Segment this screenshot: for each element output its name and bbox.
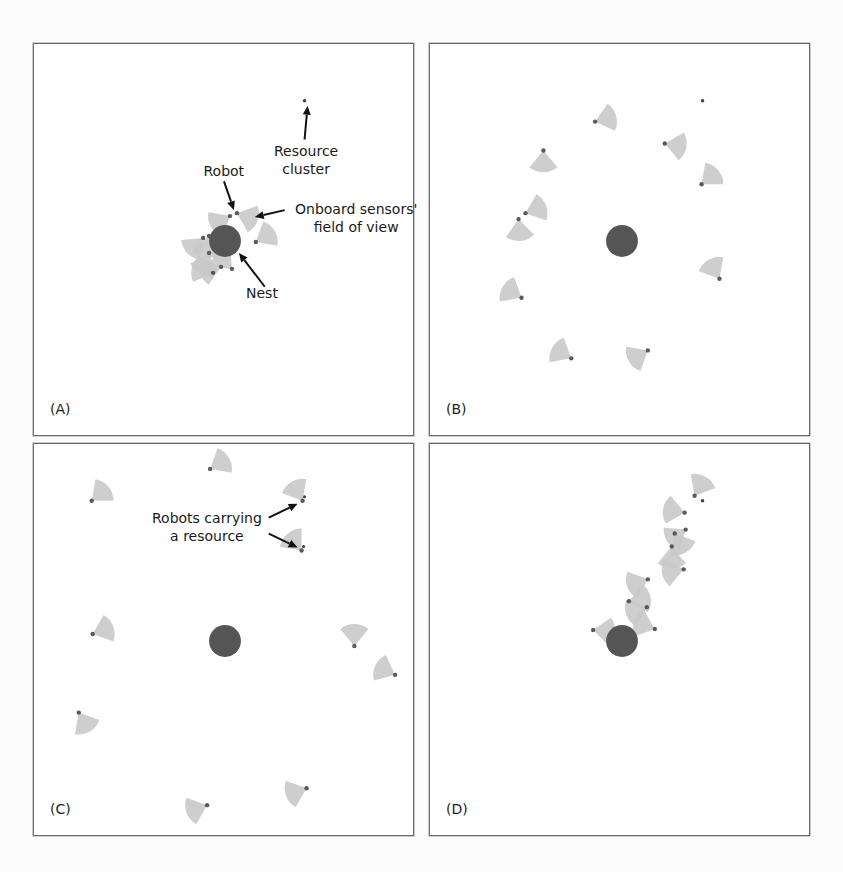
arrow-head-icon (303, 106, 311, 115)
sensor-fov-icon (626, 347, 648, 371)
annotation-line: Robot (204, 162, 245, 180)
robot-icon (670, 544, 674, 548)
panel-b-canvas (430, 44, 809, 435)
robot-icon (646, 577, 650, 581)
robot-icon (673, 531, 677, 535)
annotation-line: Robots carrying (152, 509, 262, 527)
sensor-fov-icon (256, 221, 278, 245)
sensor-fov-icon (549, 338, 571, 362)
robot-icon (646, 348, 650, 352)
sensor-fov-icon (210, 448, 232, 472)
robot-icon (205, 803, 209, 807)
panel-d: (D) (429, 443, 810, 836)
annotation-line: a resource (152, 527, 262, 545)
sensor-fov-icon (92, 479, 114, 501)
sensor-fov-icon (373, 655, 395, 680)
sensor-fov-icon (285, 781, 307, 807)
robot-icon (235, 211, 239, 215)
robot-icon (254, 240, 258, 244)
robot-icon (352, 644, 356, 648)
robot-icon (208, 467, 212, 471)
robot-icon (77, 710, 81, 714)
carried-resource-icon (303, 495, 306, 498)
robot-icon (682, 510, 686, 514)
sensor-fov-icon (529, 150, 557, 172)
annotation-line: Resource (274, 142, 338, 160)
sensor-fov-icon (340, 624, 368, 646)
robot-icon (569, 356, 573, 360)
robot-icon (519, 296, 523, 300)
robot-icon (653, 627, 657, 631)
robot-icon (681, 567, 685, 571)
sensor-fov-icon (691, 474, 715, 496)
robot-icon (300, 499, 304, 503)
sensor-fov-icon (595, 104, 617, 131)
nest-icon (606, 625, 638, 657)
robot-icon (591, 628, 595, 632)
robot-icon (523, 211, 527, 215)
nest-icon (209, 225, 241, 257)
sensor-fov-icon (506, 219, 534, 241)
panel-c-label: (C) (50, 801, 71, 817)
robot-icon (207, 251, 211, 255)
annotation-line: Onboard sensors' (295, 200, 417, 218)
sensor-fov-icon (93, 615, 115, 641)
robot-icon (627, 599, 631, 603)
robot-icon (91, 632, 95, 636)
robot-icon (299, 548, 303, 552)
panel-a-canvas (34, 44, 413, 435)
sensor-fov-icon (75, 713, 99, 735)
panel-d-label: (D) (446, 801, 468, 817)
robot-icon (304, 786, 308, 790)
arrow-line (244, 260, 264, 287)
annotation-label: Onboard sensors'field of view (295, 200, 417, 236)
robot-icon (699, 182, 703, 186)
arrow-line (269, 508, 290, 518)
robot-icon (211, 271, 215, 275)
annotation-label: Resourcecluster (274, 142, 338, 178)
panel-c-canvas (34, 444, 413, 835)
annotation-label: Robot (204, 162, 245, 180)
sensor-fov-icon (702, 163, 724, 185)
sensor-fov-icon (525, 194, 547, 220)
robot-icon (230, 267, 234, 271)
panel-c: (C) Robots carryinga resource (33, 443, 414, 836)
nest-icon (209, 625, 241, 657)
sensor-fov-icon (500, 277, 522, 301)
panel-a-label: (A) (50, 401, 71, 417)
annotation-line: cluster (274, 160, 338, 178)
robot-icon (90, 499, 94, 503)
sensor-fov-icon (665, 133, 687, 161)
robot-icon (219, 265, 223, 269)
robot-icon (663, 141, 667, 145)
robot-icon (717, 277, 721, 281)
resource-cluster-icon (701, 499, 705, 503)
robot-icon (228, 214, 232, 218)
robot-icon (207, 234, 211, 238)
annotation-line: Nest (246, 284, 278, 302)
sensor-fov-icon (663, 496, 685, 524)
robot-icon (541, 148, 545, 152)
arrow-line (305, 115, 307, 140)
nest-icon (606, 225, 638, 257)
arrow-head-icon (227, 200, 235, 210)
panel-a: (A) ResourceclusterRobotOnboard sensors'… (33, 43, 414, 436)
carried-resource-icon (302, 545, 305, 548)
sensor-fov-icon (282, 479, 306, 501)
robot-icon (692, 494, 696, 498)
robot-icon (393, 673, 397, 677)
sensor-fov-icon (185, 798, 207, 824)
robot-icon (683, 527, 687, 531)
sensor-fov-icon (237, 206, 259, 232)
panel-b-label: (B) (446, 401, 467, 417)
annotation-label: Nest (246, 284, 278, 302)
annotation-line: field of view (295, 218, 417, 236)
robot-icon (516, 217, 520, 221)
robot-icon (593, 119, 597, 123)
resource-cluster-icon (303, 99, 307, 103)
panel-b: (B) (429, 43, 810, 436)
panel-d-canvas (430, 444, 809, 835)
annotation-label: Robots carryinga resource (152, 509, 262, 545)
arrow-line (264, 210, 285, 215)
robot-icon (201, 236, 205, 240)
